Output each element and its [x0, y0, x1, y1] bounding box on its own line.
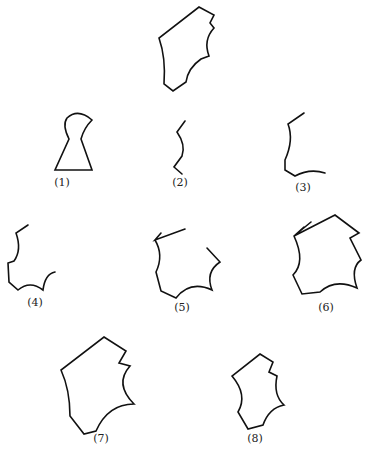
option-1-label: (1)	[54, 176, 70, 189]
option-5-shape	[155, 229, 220, 298]
option-6-label: (6)	[318, 301, 334, 314]
option-5-label: (5)	[174, 301, 190, 314]
option-2-shape	[174, 121, 185, 174]
option-3-shape	[285, 113, 325, 176]
option-4-label: (4)	[27, 296, 43, 309]
option-8-shape	[232, 354, 284, 429]
option-3-label: (3)	[295, 181, 311, 194]
option-7-label: (7)	[93, 432, 109, 445]
option-8-label: (8)	[247, 432, 263, 445]
target-shape	[159, 7, 214, 91]
option-7-shape	[61, 337, 134, 434]
option-1-shape	[55, 113, 92, 170]
option-4-shape	[8, 225, 55, 290]
option-2-label: (2)	[172, 176, 188, 189]
diagram-canvas	[0, 0, 369, 452]
option-6-shape	[293, 215, 361, 294]
